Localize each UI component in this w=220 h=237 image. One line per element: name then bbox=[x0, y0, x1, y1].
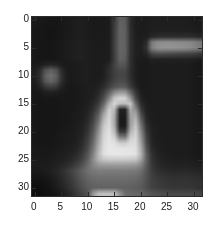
y-tick-mark bbox=[32, 132, 36, 133]
x-tick-mark bbox=[88, 192, 89, 196]
y-tick-mark bbox=[198, 160, 202, 161]
x-tick-mark bbox=[114, 17, 115, 21]
x-tick-label: 30 bbox=[187, 202, 198, 212]
x-tick-mark bbox=[141, 17, 142, 21]
y-tick-mark bbox=[32, 76, 36, 77]
x-tick-mark bbox=[88, 17, 89, 21]
x-tick-label: 0 bbox=[31, 202, 37, 212]
y-tick-label: 15 bbox=[18, 98, 29, 108]
x-tick-mark bbox=[167, 192, 168, 196]
figure-canvas: 051015202530 051015202530 bbox=[0, 0, 220, 237]
x-tick-label: 10 bbox=[81, 202, 92, 212]
x-tick-mark bbox=[61, 17, 62, 21]
y-tick-mark bbox=[198, 20, 202, 21]
x-tick-mark bbox=[114, 192, 115, 196]
x-tick-mark bbox=[141, 192, 142, 196]
y-tick-mark bbox=[198, 48, 202, 49]
y-tick-mark bbox=[32, 20, 36, 21]
y-tick-mark bbox=[198, 104, 202, 105]
x-tick-mark bbox=[61, 192, 62, 196]
y-tick-mark bbox=[198, 76, 202, 77]
y-tick-mark bbox=[32, 160, 36, 161]
y-tick-label: 0 bbox=[23, 14, 29, 24]
y-tick-mark bbox=[32, 104, 36, 105]
y-tick-label: 25 bbox=[18, 154, 29, 164]
y-tick-mark bbox=[198, 132, 202, 133]
x-tick-mark bbox=[194, 192, 195, 196]
x-tick-label: 15 bbox=[108, 202, 119, 212]
y-tick-mark bbox=[32, 188, 36, 189]
y-tick-label: 20 bbox=[18, 126, 29, 136]
y-tick-label: 10 bbox=[18, 70, 29, 80]
x-tick-mark bbox=[35, 192, 36, 196]
x-tick-mark bbox=[194, 17, 195, 21]
y-tick-mark bbox=[198, 188, 202, 189]
x-tick-label: 25 bbox=[161, 202, 172, 212]
y-tick-label: 5 bbox=[23, 42, 29, 52]
image-axes bbox=[31, 16, 203, 197]
y-tick-label: 30 bbox=[18, 182, 29, 192]
grayscale-image bbox=[32, 17, 202, 196]
x-tick-label: 20 bbox=[134, 202, 145, 212]
x-tick-mark bbox=[167, 17, 168, 21]
x-tick-label: 5 bbox=[57, 202, 63, 212]
y-tick-mark bbox=[32, 48, 36, 49]
